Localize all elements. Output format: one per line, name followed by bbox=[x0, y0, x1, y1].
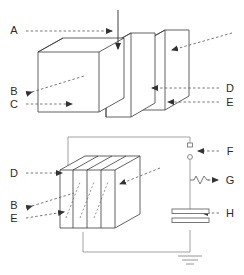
label-C: C bbox=[10, 98, 18, 110]
label-H: H bbox=[226, 207, 234, 219]
lower-panel-plate-stack bbox=[60, 156, 140, 228]
label-B-lower: B bbox=[10, 199, 17, 211]
plate-front bbox=[38, 38, 124, 112]
stack-outer-body bbox=[60, 156, 140, 228]
label-D-upper: D bbox=[226, 82, 234, 94]
label-E-lower: E bbox=[10, 212, 17, 224]
label-D-lower: D bbox=[10, 167, 18, 179]
technical-figure: A B C D E bbox=[0, 0, 244, 275]
label-G: G bbox=[226, 174, 235, 186]
label-E-upper: E bbox=[226, 96, 233, 108]
label-F: F bbox=[227, 145, 234, 157]
label-A: A bbox=[10, 24, 18, 36]
label-B-upper: B bbox=[10, 85, 17, 97]
figure-canvas: A B C D E bbox=[0, 0, 244, 275]
